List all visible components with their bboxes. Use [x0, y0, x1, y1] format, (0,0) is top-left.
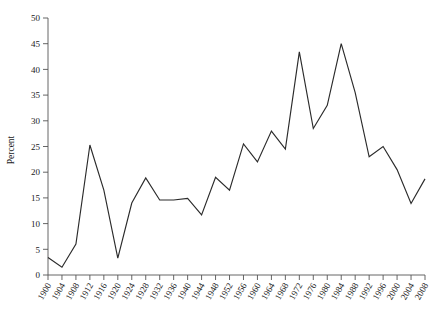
y-tick-label: 5	[36, 245, 41, 255]
y-tick-label: 25	[31, 142, 41, 152]
x-tick-label: 1912	[77, 281, 95, 302]
x-tick-label: 1972	[287, 281, 305, 302]
data-series	[48, 44, 425, 268]
y-tick-label: 30	[31, 116, 41, 126]
y-tick-label: 45	[31, 39, 41, 49]
y-tick-label: 40	[31, 65, 41, 75]
chart-container: 05101520253035404550 1900190419081912191…	[0, 0, 439, 313]
y-tick-label: 0	[36, 270, 41, 280]
x-axis: 1900190419081912191619201924192819321936…	[36, 275, 431, 302]
y-tick-label: 50	[31, 13, 41, 23]
y-tick-label: 20	[31, 167, 41, 177]
x-tick-label: 1932	[147, 281, 165, 302]
series-line	[48, 44, 425, 268]
y-axis-title: Percent	[6, 135, 16, 164]
x-tick-label: 1952	[217, 281, 235, 302]
y-tick-label: 35	[31, 90, 41, 100]
x-tick-label: 2008	[413, 281, 431, 302]
line-chart: 05101520253035404550 1900190419081912191…	[0, 0, 439, 313]
y-tick-label: 15	[31, 193, 41, 203]
y-axis: 05101520253035404550	[31, 13, 48, 280]
y-tick-label: 10	[31, 219, 41, 229]
x-tick-label: 1992	[357, 281, 375, 302]
